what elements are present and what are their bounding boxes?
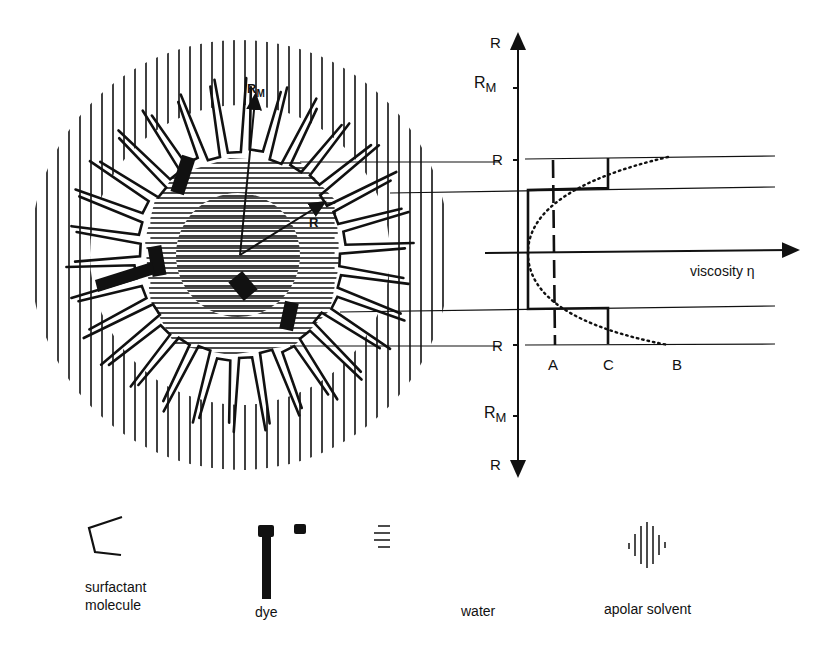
- legend-label-apolar: apolar solvent: [604, 600, 691, 618]
- water-hatch-icon: [374, 526, 390, 547]
- legend-label-surfactant: surfactant molecule: [85, 578, 146, 614]
- legend-label-water: water: [461, 602, 495, 620]
- legend-label-dye: dye: [255, 603, 278, 621]
- dye-icon: [258, 524, 306, 599]
- diagram-canvas: RM R R RM R R RM R viscosity η A C B s: [0, 0, 832, 650]
- apolar-hatch-icon: [629, 522, 665, 568]
- surfactant-icon: [89, 517, 122, 555]
